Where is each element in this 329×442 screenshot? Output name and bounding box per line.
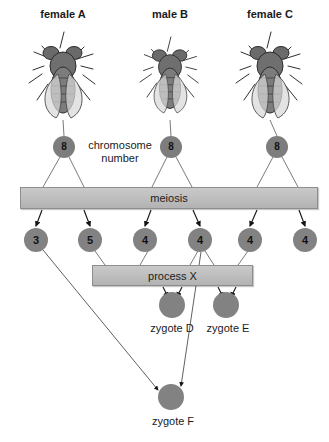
parent-label-female-a: female A [40, 8, 85, 20]
meiosis-bar-label: meiosis [150, 192, 187, 204]
zygote-label-e: zygote E [207, 322, 250, 335]
gamete-node: 4 [293, 228, 317, 252]
gamete-node: 5 [78, 228, 102, 252]
fruit-fly-icon [20, 28, 106, 126]
zygote-node-e [213, 292, 239, 318]
process-x-bar-label: process X [148, 270, 197, 282]
zygote-node-f [158, 384, 184, 410]
fruit-fly-icon [227, 28, 313, 126]
meiosis-diagram: female A male B female C [0, 0, 329, 442]
parent-label-female-c: female C [247, 8, 293, 20]
chromosome-node: 8 [53, 136, 75, 158]
gamete-node: 4 [188, 228, 212, 252]
gamete-node: 3 [24, 228, 48, 252]
gamete-node: 4 [238, 228, 262, 252]
zygote-label-d: zygote D [150, 322, 193, 335]
chromosome-number-label: chromosome number [75, 139, 165, 164]
gamete-node: 4 [133, 228, 157, 252]
zygote-label-f: zygote F [152, 415, 194, 428]
parent-label-male-b: male B [152, 8, 188, 20]
process-x-bar: process X [92, 265, 253, 286]
meiosis-bar: meiosis [20, 187, 318, 209]
fruit-fly-icon [132, 32, 208, 122]
chromosome-node: 8 [266, 136, 288, 158]
zygote-node-d [159, 292, 185, 318]
